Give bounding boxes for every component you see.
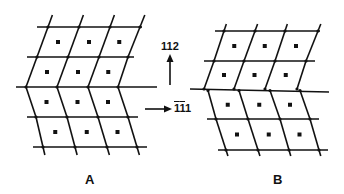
- lattice-site: [263, 44, 267, 48]
- lattice-node: [304, 59, 307, 62]
- lattice-node: [65, 115, 68, 118]
- lattice-node: [317, 148, 320, 151]
- direction-label-bar1-bar1-1: 111: [174, 102, 191, 114]
- lattice-site: [45, 100, 49, 104]
- lattice-column-line: [300, 91, 310, 120]
- lattice-column-line: [208, 91, 216, 120]
- lattice-node: [224, 148, 227, 151]
- digit: 2: [173, 40, 179, 52]
- lattice-column-line: [37, 15, 52, 57]
- lattice-column-line: [239, 91, 248, 120]
- lattice-column-line: [57, 57, 68, 87]
- lattice-site: [257, 103, 261, 107]
- lattice-node: [202, 87, 205, 90]
- lattice-site: [294, 44, 298, 48]
- lattice-column-line: [26, 87, 36, 117]
- lattice-column-line: [297, 61, 306, 89]
- lattice-column-line: [204, 61, 214, 89]
- lattice-node: [73, 145, 76, 148]
- lattice-node: [126, 115, 129, 118]
- lattice-site: [298, 133, 302, 137]
- lattice-column-line: [265, 61, 275, 89]
- lattice-site: [226, 103, 230, 107]
- direction-label-112: 112: [161, 40, 179, 52]
- lattice-node: [268, 89, 271, 92]
- lattice-node: [212, 59, 215, 62]
- lattice-node: [287, 148, 290, 151]
- lattice-site: [53, 130, 57, 134]
- lattice-node: [246, 117, 249, 120]
- lattice-b: [190, 24, 329, 156]
- lattice-column-line: [128, 117, 139, 155]
- lattice-site: [267, 133, 271, 137]
- lattice-column-line: [118, 87, 128, 117]
- lattice-node: [46, 25, 49, 28]
- arrow-right-head: [164, 106, 172, 113]
- lattice-node: [138, 25, 141, 28]
- lattice-node: [116, 85, 119, 88]
- panel-label-a: A: [85, 172, 94, 187]
- lattice-site: [284, 73, 288, 77]
- lattice-row-line: [190, 89, 329, 92]
- lattice-node: [108, 25, 111, 28]
- direction-arrows: [145, 54, 174, 113]
- lattice-node: [34, 115, 37, 118]
- lattice-column-line: [68, 15, 83, 57]
- digit: 1: [185, 102, 191, 114]
- lattice-column-line: [57, 87, 67, 117]
- lattice-node: [135, 145, 138, 148]
- lattice-node: [298, 89, 301, 92]
- lattice-node: [237, 89, 240, 92]
- lattice-column-line: [98, 117, 109, 155]
- lattice-node: [278, 117, 281, 120]
- lattice-node: [316, 29, 319, 32]
- lattice-node: [253, 29, 256, 32]
- lattice-site: [45, 70, 49, 74]
- lattice-a: [16, 15, 157, 155]
- lattice-node: [66, 55, 69, 58]
- arrow-up-head: [167, 54, 174, 62]
- lattice-site: [87, 40, 91, 44]
- lattice-node: [273, 59, 276, 62]
- lattice-node: [295, 87, 298, 90]
- lattice-column-line: [26, 57, 37, 87]
- lattice-column-line: [88, 57, 99, 87]
- lattice-column-line: [270, 91, 280, 120]
- lattice-node: [308, 117, 311, 120]
- lattice-node: [41, 145, 44, 148]
- lattice-column-line: [118, 57, 128, 87]
- lattice-node: [214, 117, 217, 120]
- lattice-site: [76, 70, 80, 74]
- lattice-node: [206, 89, 209, 92]
- lattice-node: [55, 85, 58, 88]
- lattice-site: [106, 70, 110, 74]
- lattice-node: [222, 29, 225, 32]
- lattice-node: [35, 55, 38, 58]
- lattice-node: [126, 55, 129, 58]
- lattice-site: [116, 130, 120, 134]
- lattice-column-line: [234, 61, 244, 89]
- lattice-node: [256, 148, 259, 151]
- lattice-column-line: [88, 87, 98, 117]
- lattice-node: [86, 85, 89, 88]
- lattice-node: [105, 145, 108, 148]
- lattice-node: [24, 85, 27, 88]
- lattice-site: [288, 103, 292, 107]
- lattice-site: [222, 73, 226, 77]
- lattice-site: [106, 100, 110, 104]
- lattice-node: [263, 87, 266, 90]
- lattice-site: [56, 40, 60, 44]
- lattice-column-line: [67, 117, 77, 155]
- panel-label-b: B: [273, 172, 282, 187]
- lattice-site: [117, 40, 121, 44]
- lattice-site: [85, 130, 89, 134]
- lattice-node: [232, 87, 235, 90]
- lattice-node: [97, 55, 100, 58]
- lattice-node: [77, 25, 80, 28]
- lattice-site: [235, 133, 239, 137]
- lattice-site: [253, 73, 257, 77]
- lattice-node: [242, 59, 245, 62]
- lattice-site: [232, 44, 236, 48]
- lattice-node: [283, 29, 286, 32]
- lattice-column-line: [128, 15, 145, 57]
